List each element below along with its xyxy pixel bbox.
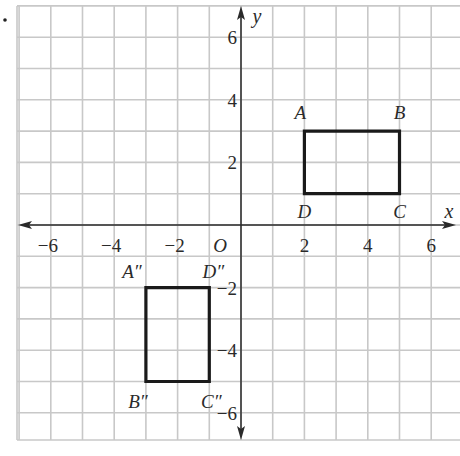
coordinate-plane: −6−4−2246642−2−4−6OxyABCDA″B″C″D″	[0, 0, 460, 456]
x-tick-label: −4	[101, 235, 122, 256]
y-tick-label: 6	[228, 27, 238, 48]
y-tick-label: 2	[228, 152, 238, 173]
axes	[18, 6, 456, 440]
vertex-label: D″	[201, 261, 225, 282]
vertex-label: A	[293, 102, 307, 123]
vertex-label: C″	[201, 391, 223, 412]
y-tick-label: −4	[217, 340, 238, 361]
x-tick-label: 6	[426, 235, 436, 256]
vertex-label: B	[394, 102, 406, 123]
x-tick-label: 4	[363, 235, 373, 256]
vertex-label: B″	[128, 391, 149, 412]
vertex-label: C	[393, 201, 406, 222]
x-tick-label: −2	[164, 235, 184, 256]
vertex-label: A″	[120, 261, 143, 282]
y-axis-label: y	[251, 5, 262, 28]
y-tick-label: 4	[228, 90, 238, 111]
grid-lines	[17, 6, 460, 440]
problem-bullet	[3, 18, 7, 22]
x-tick-label: 2	[300, 235, 310, 256]
vertex-label: D	[297, 201, 312, 222]
x-tick-label: −6	[38, 235, 58, 256]
origin-label: O	[213, 235, 227, 256]
x-axis-label: x	[444, 200, 454, 222]
